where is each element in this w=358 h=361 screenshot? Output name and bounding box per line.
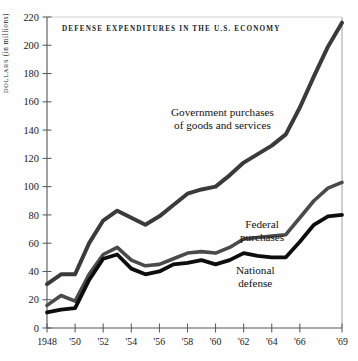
y-tick-label-0: 0 [34, 323, 39, 334]
y-axis-label-rest: (in millions) [1, 13, 10, 59]
series-annotation-federal-line2: purchases [240, 231, 284, 244]
x-tick-label-1950: '50 [69, 336, 81, 347]
series-annotation-national-line1: National [236, 264, 275, 277]
series-annotation-federal-line1: Federal [240, 218, 284, 231]
y-tick-label-220: 220 [23, 12, 39, 23]
x-tick-label-1966: '66 [294, 336, 306, 347]
chart-figure: 0204060801001201401601802002201948'50'52… [0, 0, 358, 361]
series-annotation-government-line2: of goods and services [171, 119, 274, 132]
x-tick-label-1952: '52 [97, 336, 109, 347]
series-annotation-national-line2: defense [236, 277, 275, 290]
series-annotation-national-defense: National defense [236, 264, 275, 290]
series-annotation-government-line1: Government purchases [171, 106, 274, 119]
y-tick-label-140: 140 [23, 125, 39, 136]
series-annotation-government: Government purchases of goods and servic… [171, 106, 274, 132]
y-tick-label-40: 40 [29, 266, 39, 277]
y-tick-label-100: 100 [23, 181, 39, 192]
x-tick-label-1954: '54 [126, 336, 138, 347]
x-tick-label-1948: 1948 [37, 336, 57, 347]
x-tick-label-1956: '56 [154, 336, 166, 347]
series-annotation-federal: Federal purchases [240, 218, 284, 244]
x-tick-label-1960: '60 [210, 336, 222, 347]
x-tick-label-1969: '69 [336, 336, 348, 347]
y-axis-label-smallcaps: DOLLARS [2, 59, 9, 93]
x-tick-label-1964: '64 [266, 336, 278, 347]
y-axis-label: DOLLARS (in millions) [1, 0, 10, 118]
y-tick-label-120: 120 [23, 153, 39, 164]
y-tick-label-60: 60 [29, 238, 39, 249]
series-line-national-defense [47, 215, 342, 313]
chart-title: DEFENSE EXPENDITURES IN THE U.S. ECONOMY [62, 25, 281, 33]
x-tick-label-1958: '58 [182, 336, 194, 347]
y-tick-label-200: 200 [23, 40, 39, 51]
y-tick-label-20: 20 [29, 294, 39, 305]
y-tick-label-80: 80 [29, 210, 39, 221]
y-tick-label-160: 160 [23, 96, 39, 107]
y-tick-label-180: 180 [23, 68, 39, 79]
defense-expenditures-line-chart: 0204060801001201401601802002201948'50'52… [0, 0, 358, 361]
x-tick-label-1962: '62 [238, 336, 250, 347]
